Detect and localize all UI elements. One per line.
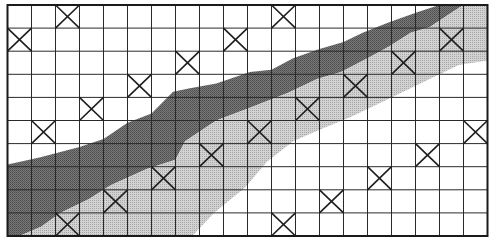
cross-mark-icon	[128, 74, 152, 97]
cross-mark-icon	[224, 28, 248, 51]
cross-mark-icon	[272, 213, 296, 236]
cross-mark-icon	[464, 121, 488, 144]
cross-mark-icon	[80, 97, 104, 120]
diagram-canvas	[0, 0, 490, 243]
cross-mark-icon	[320, 190, 344, 213]
grid-diagram	[0, 0, 490, 243]
cross-mark-icon	[56, 5, 80, 28]
cross-mark-icon	[368, 167, 392, 190]
cross-mark-icon	[416, 144, 440, 167]
cross-mark-icon	[176, 51, 200, 74]
cross-mark-icon	[8, 28, 32, 51]
cross-mark-icon	[32, 121, 56, 144]
cross-mark-icon	[272, 5, 296, 28]
